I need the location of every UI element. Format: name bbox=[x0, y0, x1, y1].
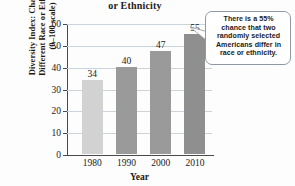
y-tick-label: 30 bbox=[52, 85, 62, 95]
y-tick-label: 50 bbox=[52, 41, 62, 51]
y-tick-label: 60 bbox=[52, 19, 62, 29]
x-tick-label: 2000 bbox=[151, 158, 170, 168]
y-tick-mark bbox=[63, 24, 67, 25]
y-tick-label: 40 bbox=[52, 63, 62, 73]
x-tick-label: 1980 bbox=[83, 158, 102, 168]
callout-line-4: Americans differ in bbox=[211, 41, 286, 50]
bar-value-label: 47 bbox=[156, 40, 166, 50]
x-axis-label: Year bbox=[67, 172, 212, 182]
bar-value-label: 40 bbox=[122, 56, 132, 66]
bar: 47 bbox=[150, 51, 171, 154]
y-tick-mark bbox=[63, 155, 67, 156]
chart-title: or Ethnicity bbox=[60, 0, 210, 11]
chart-screenshot: or Ethnicity Diversity Index: Chance of … bbox=[0, 0, 295, 186]
y-tick-mark bbox=[63, 90, 67, 91]
bar: 34 bbox=[82, 80, 103, 154]
callout-line-1: There is a 55% bbox=[211, 15, 286, 24]
x-tick-label: 1990 bbox=[117, 158, 136, 168]
callout-line-2: chance that two bbox=[211, 24, 286, 33]
bar-value-label: 34 bbox=[87, 69, 97, 79]
callout-line-5: race or ethnicity. bbox=[211, 49, 286, 58]
bar: 40 bbox=[116, 67, 137, 154]
y-tick-label: 20 bbox=[52, 106, 62, 116]
bar: 55 bbox=[184, 34, 205, 154]
y-tick-mark bbox=[63, 133, 67, 134]
x-tick-label: 2010 bbox=[185, 158, 204, 168]
y-tick-mark bbox=[63, 111, 67, 112]
x-axis-line bbox=[67, 155, 214, 156]
callout-line-3: randomly selected bbox=[211, 32, 286, 41]
annotation-callout: There is a 55% chance that two randomly … bbox=[205, 11, 291, 65]
y-tick-mark bbox=[63, 68, 67, 69]
y-tick-label: 0 bbox=[56, 150, 61, 160]
y-tick-mark bbox=[63, 46, 67, 47]
y-tick-label: 10 bbox=[52, 128, 62, 138]
